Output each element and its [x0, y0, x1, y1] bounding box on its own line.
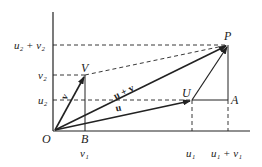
x-label-u1-plus-v1: u₁ + v₁: [211, 147, 242, 159]
point-label-U: U: [182, 86, 192, 100]
point-label-P: P: [223, 29, 232, 43]
y-label-u2: u₂: [38, 94, 48, 106]
point-label-O: O: [42, 132, 51, 146]
vector-addition-diagram: O B V U A P v u u + v u₂ + v₂ v₂ u₂ v₁ u…: [0, 0, 262, 167]
vector-label-u: u: [114, 101, 122, 113]
y-label-v2: v₂: [38, 69, 47, 81]
point-label-A: A: [230, 93, 239, 107]
y-label-u2-plus-v2: u₂ + v₂: [14, 39, 45, 51]
vector-u: [55, 101, 190, 130]
guide-V-to-P: [85, 45, 228, 75]
x-label-v1: v₁: [80, 147, 89, 159]
vector-label-u-plus-v: u + v: [112, 82, 136, 101]
point-label-V: V: [81, 61, 90, 75]
x-label-u1: u₁: [186, 147, 196, 159]
point-label-B: B: [81, 132, 89, 146]
